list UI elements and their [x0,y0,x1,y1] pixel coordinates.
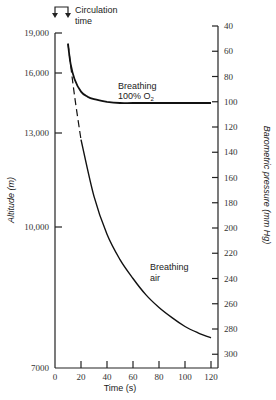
air-label-line2: air [150,273,160,283]
right-tick-label: 140 [224,147,238,157]
o2-label-line2: 100% O2 [118,91,155,102]
right-tick-label: 120 [224,122,238,132]
right-tick-label: 160 [224,173,238,183]
right-tick-label: 240 [224,274,238,284]
x-tick-label: 20 [77,372,87,382]
x-tick-label: 40 [103,372,113,382]
right-tick-label: 60 [224,46,234,56]
right-tick-label: 100 [224,97,238,107]
right-axis-ticks: 406080100120140160180200220240260280300 [212,21,238,359]
x-axis-ticks: 020406080100120 [53,361,219,382]
x-tick-label: 120 [204,372,218,382]
x-tick-label: 100 [178,372,192,382]
x-tick-label: 60 [129,372,139,382]
right-tick-label: 220 [224,248,238,258]
o2-label-line1: Breathing [118,81,157,91]
circulation-label-line1: Circulation [75,5,118,15]
left-axis-title: Altitude (m) [6,177,16,224]
left-axis-ticks: 19,00016,00013,00010,0007000 [24,28,62,373]
chart-canvas: 19,00016,00013,00010,0007000 40608010012… [0,0,276,400]
right-tick-label: 300 [224,349,238,359]
left-tick-label: 13,000 [24,128,49,138]
arrow-down-icon [65,13,71,18]
x-axis-title: Time (s) [104,383,137,393]
x-tick-label: 0 [53,372,58,382]
right-tick-label: 200 [224,223,238,233]
left-tick-label: 10,000 [24,222,49,232]
right-axis-title: Barometric pressure (mm Hg) [262,126,272,245]
right-tick-label: 280 [224,324,238,334]
circulation-label-line2: time [75,16,92,26]
left-tick-label: 16,000 [24,68,49,78]
left-tick-label: 7000 [31,363,50,373]
series-breathing-air [81,140,211,338]
air-label-line1: Breathing [150,262,189,272]
right-tick-label: 40 [224,21,234,31]
right-tick-label: 80 [224,72,234,82]
right-tick-label: 180 [224,198,238,208]
left-tick-label: 19,000 [24,28,49,38]
circulation-time-marker: Circulation time [52,5,118,26]
circulation-bracket [55,7,68,14]
arrow-down-icon [52,13,58,18]
right-tick-label: 260 [224,299,238,309]
series-breathing-air-dashed [68,44,81,140]
x-tick-label: 80 [155,372,165,382]
